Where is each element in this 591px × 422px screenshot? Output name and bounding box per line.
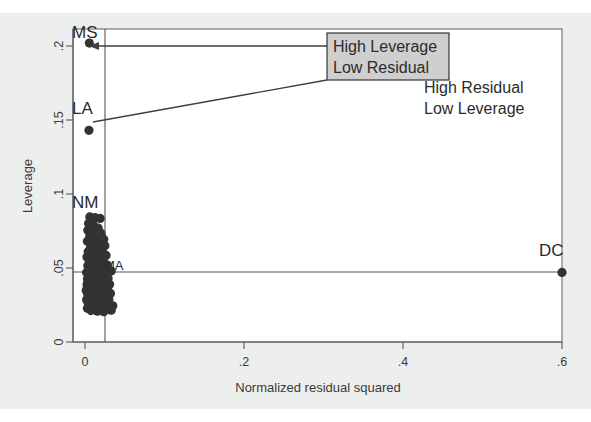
annotation-box-line-1: High Leverage bbox=[333, 38, 437, 55]
figure-container: .2 .15 .1 .05 0 0 .2 .4 .6 Leverage Norm… bbox=[0, 0, 591, 422]
point-label-dc: DC bbox=[539, 241, 564, 260]
x-tick-label-0: 0 bbox=[82, 355, 89, 369]
y-tick-label-3: .05 bbox=[52, 259, 66, 276]
y-axis bbox=[66, 29, 73, 342]
y-tick-label-2: .1 bbox=[52, 189, 66, 199]
data-point bbox=[99, 307, 108, 316]
annotation-high-leverage-low-residual: High Leverage Low Residual bbox=[327, 33, 449, 80]
x-tick-label-3: .6 bbox=[557, 355, 567, 369]
point-label-nm: NM bbox=[72, 193, 98, 212]
y-tick-label-1: .15 bbox=[52, 111, 66, 128]
y-tick-label-0: .2 bbox=[52, 41, 66, 51]
x-axis-title: Normalized residual squared bbox=[235, 380, 400, 395]
annotation-plain-line-2: Low Leverage bbox=[424, 100, 525, 117]
x-tick-label-2: .4 bbox=[398, 355, 408, 369]
plot-frame bbox=[73, 29, 562, 342]
x-axis bbox=[73, 342, 562, 349]
data-point bbox=[84, 126, 93, 135]
annotation-plain-line-1: High Residual bbox=[424, 79, 524, 96]
point-label-ms: MS bbox=[72, 23, 98, 42]
point-label-ma: MA bbox=[104, 258, 124, 273]
scatter-plot: .2 .15 .1 .05 0 0 .2 .4 .6 Leverage Norm… bbox=[0, 0, 591, 422]
annotation-box-line-2: Low Residual bbox=[333, 59, 429, 76]
y-axis-title: Leverage bbox=[20, 159, 35, 213]
point-label-la: LA bbox=[72, 99, 93, 118]
data-point bbox=[96, 214, 105, 223]
x-tick-label-1: .2 bbox=[239, 355, 249, 369]
y-tick-label-4: 0 bbox=[52, 338, 66, 345]
data-point bbox=[557, 268, 566, 277]
